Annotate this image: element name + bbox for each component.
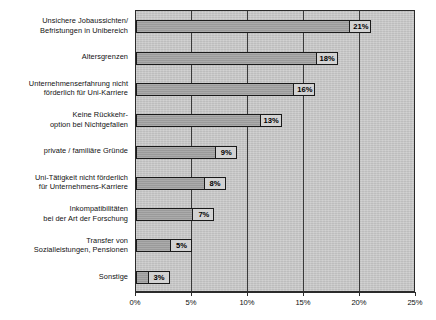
category-label-line: Sozialleistungen, Pensionen <box>0 245 128 254</box>
x-axis-tick <box>191 292 192 296</box>
category-label: Keine Rückkehr-option bei Nichtgefallen <box>0 110 128 129</box>
bar-value-label: 5% <box>170 239 192 252</box>
bar-value-label: 16% <box>293 83 315 96</box>
x-axis-tick-label: 10% <box>232 298 262 307</box>
bar <box>136 20 371 33</box>
horizontal-bar-chart: Unsichere Jobaussichten/Befristungen in … <box>0 0 436 320</box>
x-axis-tick <box>247 292 248 296</box>
category-label: Unsichere Jobaussichten/Befristungen in … <box>0 16 128 35</box>
category-label: Unternehmenserfahrung nichtförderlich fü… <box>0 79 128 98</box>
category-label-line: bei der Art der Forschung <box>0 214 128 223</box>
category-label: Transfer vonSozialleistungen, Pensionen <box>0 236 128 255</box>
x-axis-tick <box>359 292 360 296</box>
category-axis-labels: Unsichere Jobaussichten/Befristungen in … <box>0 10 132 292</box>
bar-value-label: 21% <box>349 20 371 33</box>
category-label-line: Transfer von <box>0 236 128 245</box>
gridline <box>359 11 360 291</box>
category-label-line: option bei Nichtgefallen <box>0 120 128 129</box>
x-axis-tick-label: 5% <box>176 298 206 307</box>
category-label-line: Altersgrenzen <box>0 52 128 61</box>
bar-value-label: 9% <box>215 146 237 159</box>
bar-value-label: 13% <box>260 114 282 127</box>
bar <box>136 52 338 65</box>
x-axis-line <box>135 292 416 293</box>
category-label: Altersgrenzen <box>0 52 128 61</box>
x-axis-tick-label: 15% <box>288 298 318 307</box>
category-label-line: für Unternehmens-Karriere <box>0 182 128 191</box>
category-label-line: Uni-Tätigkeit nicht förderlich <box>0 173 128 182</box>
x-axis-tick-label: 20% <box>344 298 374 307</box>
x-axis-tick-label: 0% <box>120 298 150 307</box>
bar <box>136 83 315 96</box>
x-axis-tick <box>135 292 136 296</box>
category-label: private / familiäre Gründe <box>0 146 128 155</box>
category-label-line: Keine Rückkehr- <box>0 110 128 119</box>
bar-value-label: 18% <box>316 52 338 65</box>
bar-value-label: 3% <box>148 271 170 284</box>
x-axis-tick <box>415 292 416 296</box>
category-label-line: private / familiäre Gründe <box>0 146 128 155</box>
category-label-line: Sonstige <box>0 272 128 281</box>
category-label-line: Unternehmenserfahrung nicht <box>0 79 128 88</box>
x-axis-tick <box>303 292 304 296</box>
category-label-line: Unsichere Jobaussichten/ <box>0 16 128 25</box>
bar-value-label: 7% <box>192 208 214 221</box>
category-label: Sonstige <box>0 272 128 281</box>
plot-area: 21%18%16%13%9%8%7%5%3% <box>135 10 415 292</box>
bar-value-label: 8% <box>204 177 226 190</box>
category-label: Uni-Tätigkeit nicht förderlichfür Untern… <box>0 173 128 192</box>
category-label-line: Befristungen in Unibereich <box>0 26 128 35</box>
category-label-line: Inkompatibilitäten <box>0 204 128 213</box>
category-label: Inkompatibilitätenbei der Art der Forsch… <box>0 204 128 223</box>
x-axis-tick-label: 25% <box>400 298 430 307</box>
category-label-line: förderlich für Uni-Karriere <box>0 88 128 97</box>
